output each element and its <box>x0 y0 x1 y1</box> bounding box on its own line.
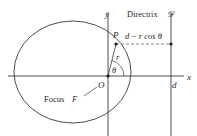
point-p <box>114 42 117 45</box>
directrix-label: Directrix <box>127 9 158 19</box>
point-origin <box>106 74 109 77</box>
ellipse-directrix-diagram: y x Directrix 𝒟 P d − r cos θ r θ O d Fo… <box>0 0 197 136</box>
point-directrix <box>169 42 172 45</box>
focus-symbol: F <box>71 94 78 104</box>
distance-expression-rest: − r cos θ <box>131 31 162 41</box>
origin-label: O <box>98 80 105 90</box>
focus-leader-line <box>84 87 97 96</box>
angle-label: θ <box>112 65 116 75</box>
distance-expression-d: d <box>125 31 130 41</box>
d-tick-label: d <box>172 80 177 90</box>
focus-label: Focus <box>44 94 64 104</box>
x-axis-label: x <box>186 72 191 82</box>
radius-label: r <box>116 52 120 62</box>
y-axis-label: y <box>104 9 109 19</box>
point-p-label: P <box>112 30 119 40</box>
directrix-symbol: 𝒟 <box>167 9 176 19</box>
